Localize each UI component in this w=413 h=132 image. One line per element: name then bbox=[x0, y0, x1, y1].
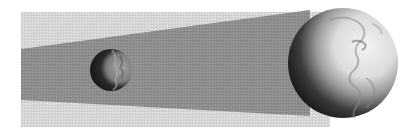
moon-icon bbox=[90, 49, 132, 91]
earth-icon bbox=[288, 8, 398, 118]
lunar-eclipse-illustration bbox=[0, 0, 413, 132]
